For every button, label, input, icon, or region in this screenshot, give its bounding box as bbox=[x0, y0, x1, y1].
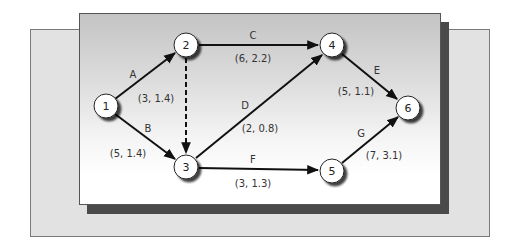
edges bbox=[115, 45, 398, 170]
node-1-label: 1 bbox=[103, 100, 110, 113]
node-5: 5 bbox=[320, 159, 344, 183]
edge-d-arrow bbox=[196, 55, 322, 158]
node-6: 6 bbox=[396, 96, 420, 120]
edge-d-label: D bbox=[241, 100, 249, 111]
node-1: 1 bbox=[94, 94, 118, 118]
edge-g-estimate: (7, 3.1) bbox=[366, 150, 403, 161]
edge-e-label: E bbox=[374, 65, 380, 76]
edge-b-estimate: (5, 1.4) bbox=[110, 148, 147, 159]
edge-f-label: F bbox=[250, 154, 256, 165]
node-3: 3 bbox=[174, 155, 198, 179]
edge-a-estimate: (3, 1.4) bbox=[138, 93, 175, 104]
edge-c-label: C bbox=[250, 30, 257, 41]
node-2-label: 2 bbox=[183, 39, 190, 52]
edge-g-label: G bbox=[357, 128, 365, 139]
node-6-label: 6 bbox=[405, 102, 412, 115]
edge-f-estimate: (3, 1.3) bbox=[235, 178, 272, 189]
node-2: 2 bbox=[174, 33, 198, 57]
node-3-label: 3 bbox=[183, 161, 190, 174]
edge-d-estimate: (2, 0.8) bbox=[242, 123, 279, 134]
edge-c-estimate: (6, 2.2) bbox=[235, 53, 272, 64]
node-4: 4 bbox=[320, 33, 344, 57]
node-4-label: 4 bbox=[329, 39, 336, 52]
node-5-label: 5 bbox=[329, 165, 336, 178]
edge-f-arrow bbox=[199, 168, 318, 170]
edge-b-label: B bbox=[145, 123, 152, 134]
edge-e-estimate: (5, 1.1) bbox=[338, 86, 375, 97]
network-diagram: A (3, 1.4) B (5, 1.4) C (6, 2.2) D (2, 0… bbox=[0, 0, 516, 252]
edge-a-label: A bbox=[130, 69, 137, 80]
